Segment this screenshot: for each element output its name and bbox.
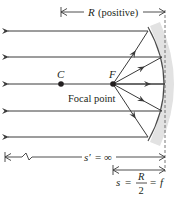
focal-point-dot [110, 81, 116, 87]
radius-label: R [87, 6, 95, 18]
concave-mirror-diagram: C F Focal point R (positive) s′ = ∞ s = … [0, 0, 187, 198]
image-distance-symbol: s′ [84, 151, 91, 163]
center-of-curvature-point [58, 81, 64, 87]
object-distance-symbol: s [116, 176, 120, 188]
radius-note: (positive) [98, 7, 139, 19]
focal-length-symbol: f [160, 176, 165, 188]
equals-1: = [125, 176, 131, 188]
image-distance-dimension-left [5, 153, 82, 160]
fraction-denominator: 2 [139, 185, 144, 196]
image-distance-value: = ∞ [95, 151, 112, 163]
equals-2: = [150, 176, 156, 188]
label-f: F [108, 68, 116, 80]
fraction-numerator: R [137, 171, 145, 182]
focal-point-label: Focal point [68, 93, 116, 104]
label-c: C [57, 68, 65, 80]
